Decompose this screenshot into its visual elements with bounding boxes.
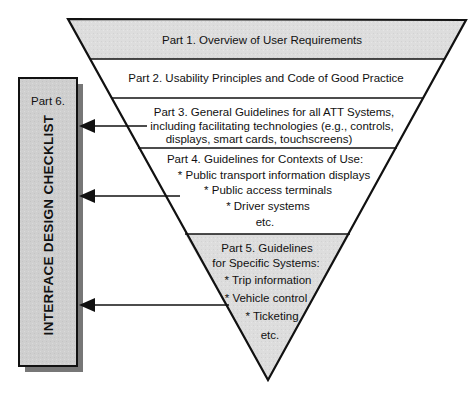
part3-line-1: Part 3. General Guidelines for all ATT S…: [154, 106, 395, 118]
part4-line-2: * Public transport information displays: [178, 169, 371, 181]
arrow-part5: [79, 298, 229, 312]
part2-title: Part 2. Usability Principles and Code of…: [128, 72, 404, 84]
part3-line-2: including facilitating technologies (e.g…: [150, 120, 394, 132]
part6-label: Part 6.: [31, 95, 65, 107]
guideline-diagram: Part 1. Overview of User Requirements Pa…: [0, 0, 476, 400]
part4-line-1: Part 4. Guidelines for Contexts of Use:: [167, 153, 363, 165]
part4-line-5: etc.: [256, 216, 275, 228]
part5-line-4: * Vehicle control: [225, 292, 307, 304]
part5-band: [185, 234, 350, 380]
part1-title: Part 1. Overview of User Requirements: [162, 34, 362, 46]
part3-line-3: displays, smart cards, touchscreens): [166, 133, 353, 145]
part5-line-5: * Ticketing: [245, 310, 298, 322]
part5-line-3: * Trip information: [225, 274, 312, 286]
part5-line-6: etc.: [261, 329, 280, 341]
part5-line-2: for Specific Systems:: [212, 257, 319, 269]
checklist-vertical-title: INTERFACE DESIGN CHECKLIST: [41, 114, 56, 335]
part4-line-4: * Driver systems: [226, 200, 310, 212]
part4-line-3: * Public access terminals: [204, 184, 332, 196]
part5-line-1: Part 5. Guidelines: [221, 242, 313, 254]
